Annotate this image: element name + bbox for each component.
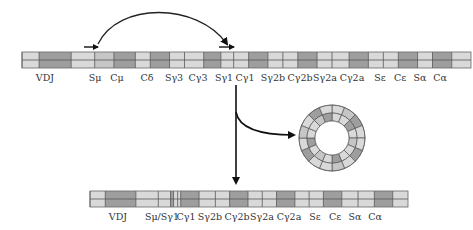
gene-label: Cγ2b (224, 211, 249, 222)
excision-circle (299, 105, 365, 171)
gene-label: Sμ (89, 72, 102, 83)
class-switch-recombination-diagram: VDJSμCμCδSγ3Cγ3Sγ1Cγ1Sγ2bCγ2bSγ2aCγ2aSεC… (0, 0, 473, 230)
gene-label: Cγ1 (236, 72, 255, 83)
gene-label: Sγ1 (215, 72, 233, 83)
gene-label: VDJ (35, 72, 54, 83)
gene-label: VDJ (108, 211, 127, 222)
gene-label: Cδ (141, 72, 154, 83)
gene-label: Sγ2a (250, 211, 274, 222)
switched-heavy-chain-locus (90, 191, 408, 207)
switched-gene-labels: VDJSμ/Sγ1Cγ1Sγ2bCγ2bSγ2aCγ2aSεCεSαCα (108, 211, 383, 222)
gene-label: Sγ2b (261, 72, 285, 83)
germline-heavy-chain-locus (22, 52, 471, 68)
gene-label: Sγ2a (313, 72, 337, 83)
gene-label: Cε (329, 211, 341, 222)
gene-label: Cα (433, 72, 447, 83)
gene-label: Sμ/Sγ1 (145, 211, 179, 222)
gene-label: Cε (394, 72, 406, 83)
gene-label: Sα (349, 211, 363, 222)
germline-gene-labels: VDJSμCμCδSγ3Cγ3Sγ1Cγ1Sγ2bCγ2bSγ2aCγ2aSεC… (35, 72, 448, 83)
gene-label: Cμ (110, 72, 123, 83)
gene-label: Sγ3 (165, 72, 183, 83)
gene-label: Sε (309, 211, 321, 222)
gene-label: Cγ2a (277, 211, 302, 222)
gene-label: Cα (368, 211, 382, 222)
gene-label: Sε (374, 72, 386, 83)
gene-label: Cγ3 (189, 72, 208, 83)
gene-label: Cγ2a (340, 72, 365, 83)
gene-label: Sα (414, 72, 428, 83)
gene-label: Sγ2b (198, 211, 222, 222)
recombination-arrows (84, 13, 294, 184)
excision-branch-arrow-icon (236, 112, 294, 135)
switch-arc-arrow-icon (98, 13, 227, 45)
gene-label: Cγ1 (177, 211, 196, 222)
gene-label: Cγ2b (287, 72, 312, 83)
